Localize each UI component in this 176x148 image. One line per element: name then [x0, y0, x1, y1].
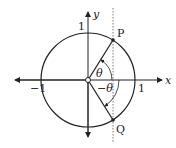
angle-label-neg-theta: −θ: [97, 82, 113, 95]
point-q: [111, 118, 115, 122]
y-axis-label: y: [92, 8, 100, 21]
tick-pos-y: 1: [78, 20, 85, 33]
origin-marker: [86, 78, 91, 83]
x-axis-label: x: [165, 74, 172, 87]
tick-neg-x: −1: [30, 82, 46, 95]
diagram-canvas: x y 1 −1 1 P Q θ −θ: [0, 0, 176, 148]
tick-pos-x: 1: [138, 82, 145, 95]
point-q-label: Q: [116, 123, 125, 136]
unit-circle-diagram: x y 1 −1 1 P Q θ −θ: [0, 0, 176, 148]
point-p-label: P: [117, 27, 125, 40]
point-p: [111, 38, 115, 42]
angle-arc-theta: [101, 60, 112, 80]
angle-label-theta: θ: [96, 67, 103, 80]
